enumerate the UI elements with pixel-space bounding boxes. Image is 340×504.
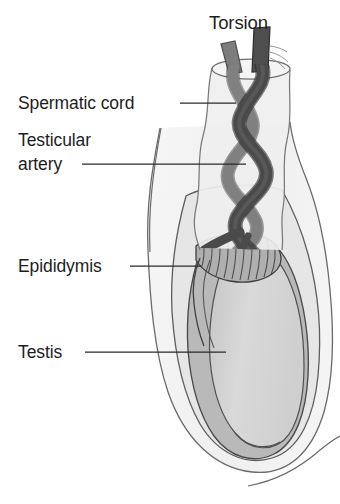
anatomy-illustration: Torsion Spermatic cord Testicular artery… [0, 0, 340, 504]
label-testis: Testis [18, 342, 62, 362]
label-testicular-artery-line2: artery [18, 154, 62, 174]
figure-title: Torsion [209, 12, 268, 33]
label-testicular-artery-line1: Testicular [18, 130, 91, 150]
label-spermatic-cord: Spermatic cord [18, 93, 134, 113]
label-epididymis: Epididymis [18, 256, 102, 276]
cord-cut-rim [212, 59, 290, 79]
torsion-diagram-figure: Torsion Spermatic cord Testicular artery… [0, 0, 340, 504]
